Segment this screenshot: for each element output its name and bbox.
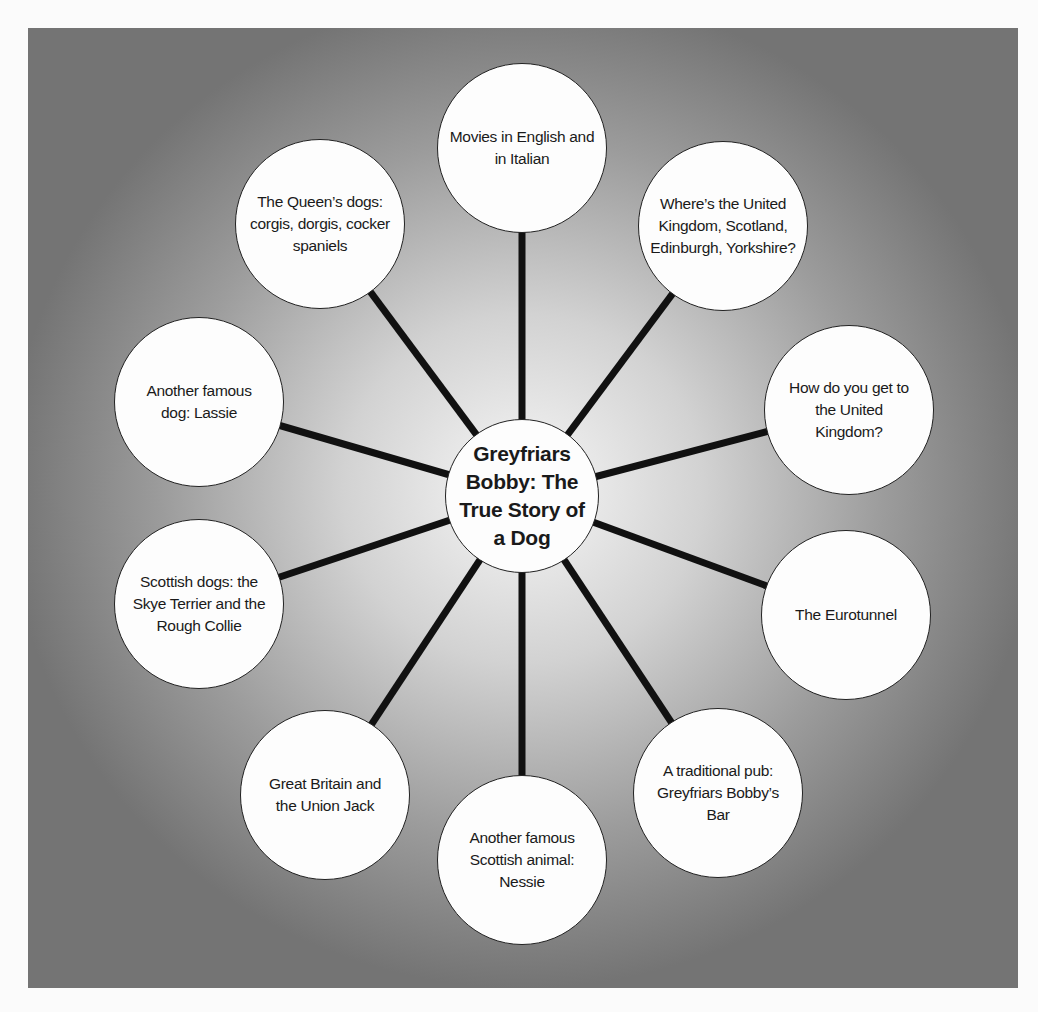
node-label: Another famous Scottish animal: Nessie — [438, 827, 606, 893]
node-wheres-uk: Where’s the United Kingdom, Scotland, Ed… — [638, 141, 808, 311]
node-label: The Eurotunnel — [785, 604, 907, 626]
node-label: How do you get to the United Kingdom? — [765, 377, 933, 443]
node-nessie: Another famous Scottish animal: Nessie — [437, 775, 607, 945]
node-scottish-dogs: Scottish dogs: the Skye Terrier and the … — [114, 519, 284, 689]
node-label: Movies in English and in Italian — [438, 126, 606, 170]
node-great-britain: Great Britain and the Union Jack — [240, 710, 410, 880]
node-label: The Queen’s dogs: corgis, dorgis, cocker… — [236, 191, 404, 257]
node-how-to-get: How do you get to the United Kingdom? — [764, 325, 934, 495]
node-label: Great Britain and the Union Jack — [241, 773, 409, 817]
node-pub: A traditional pub: Greyfriars Bobby’s Ba… — [633, 708, 803, 878]
node-label: Where’s the United Kingdom, Scotland, Ed… — [639, 193, 807, 259]
center-node: Greyfriars Bobby: The True Story of a Do… — [445, 419, 599, 573]
node-eurotunnel: The Eurotunnel — [761, 530, 931, 700]
node-label: Another famous dog: Lassie — [115, 380, 283, 424]
node-label: Scottish dogs: the Skye Terrier and the … — [115, 571, 283, 637]
center-title: Greyfriars Bobby: The True Story of a Do… — [446, 440, 598, 552]
node-lassie: Another famous dog: Lassie — [114, 317, 284, 487]
node-queens-dogs: The Queen’s dogs: corgis, dorgis, cocker… — [235, 139, 405, 309]
node-label: A traditional pub: Greyfriars Bobby’s Ba… — [634, 760, 802, 826]
node-movies: Movies in English and in Italian — [437, 63, 607, 233]
